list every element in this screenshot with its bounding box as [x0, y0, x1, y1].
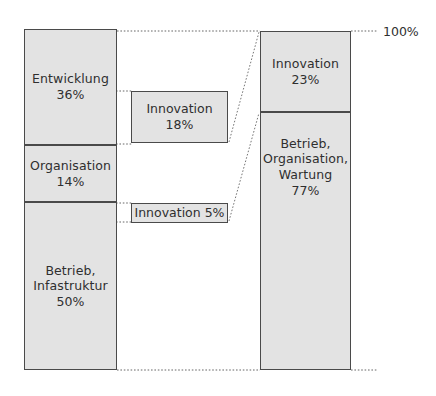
segment-betrieb-organisation-wartung-label: Betrieb, Organisation, Wartung 77% [261, 136, 350, 199]
diagonal-upper-connector [229, 32, 259, 142]
top-gridline-label: 100% [383, 24, 419, 39]
segment-betrieb-infastruktur-label: Betrieb, Infastruktur 50% [31, 263, 110, 310]
diagonal-lower-connector [229, 113, 259, 221]
diagram-canvas: Entwicklung 36% Organisation 14% Betrieb… [0, 0, 436, 396]
segment-organisation-label: Organisation 14% [28, 158, 113, 189]
segment-entwicklung[interactable]: Entwicklung 36% [24, 29, 117, 145]
segment-betrieb-organisation-wartung[interactable]: Betrieb, Organisation, Wartung 77% [260, 112, 351, 370]
segment-innovation-23-label: Innovation 23% [270, 56, 341, 87]
segment-organisation[interactable]: Organisation 14% [24, 145, 117, 202]
segment-betrieb-infastruktur[interactable]: Betrieb, Infastruktur 50% [24, 202, 117, 370]
callout-innovation-5-label: Innovation 5% [135, 205, 225, 221]
callout-innovation-5[interactable]: Innovation 5% [131, 203, 228, 223]
segment-entwicklung-label: Entwicklung 36% [30, 71, 111, 102]
callout-innovation-18-label: Innovation 18% [146, 101, 212, 132]
segment-innovation-23[interactable]: Innovation 23% [260, 31, 351, 112]
callout-innovation-18[interactable]: Innovation 18% [131, 91, 228, 143]
